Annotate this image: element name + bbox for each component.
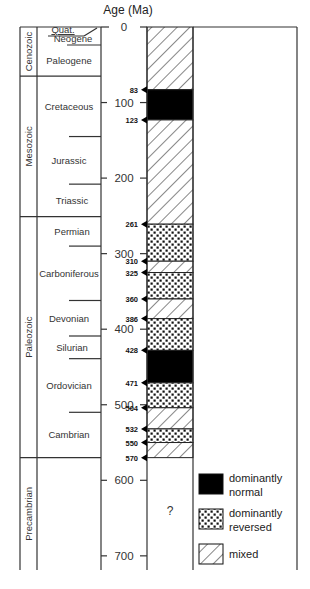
axis-tick-label: 600 xyxy=(114,474,133,486)
boundary-arrow-icon xyxy=(141,221,147,228)
polarity-interval-mixed xyxy=(147,299,193,319)
period-label-ordovician: Ordovician xyxy=(46,380,91,391)
legend-label: reversed xyxy=(229,521,272,533)
axis-tick-label: 700 xyxy=(114,550,133,562)
period-label-devonian: Devonian xyxy=(49,313,89,324)
polarity-interval-normal xyxy=(147,350,193,382)
boundary-age-label: 471 xyxy=(125,379,138,388)
polarity-column: ? xyxy=(147,27,193,570)
boundary-arrow-icon xyxy=(141,439,147,446)
boundary-arrow-icon xyxy=(141,347,147,354)
axis-tick-label: 200 xyxy=(114,172,133,184)
era-label-precambrian: Precambrian xyxy=(23,487,34,541)
polarity-interval-mixed xyxy=(147,408,193,429)
legend-label: dominantly xyxy=(229,472,283,484)
polarity-interval-reversed xyxy=(147,319,193,351)
polarity-interval-reversed xyxy=(147,429,193,443)
boundary-age-label: 325 xyxy=(125,269,138,278)
boundary-age-label: 83 xyxy=(130,86,138,95)
legend-swatch-reversed-icon xyxy=(199,509,223,529)
polarity-interval-normal xyxy=(147,90,193,120)
boundary-arrow-icon xyxy=(141,86,147,93)
legend-swatch-mixed-icon xyxy=(199,544,223,564)
boundary-age-label: 428 xyxy=(125,346,138,355)
legend: dominantlynormaldominantlyreversedmixed xyxy=(193,27,297,570)
paleomagnetic-polarity-timescale: Age (Ma) CenozoicMesozoicPaleozoicPrecam… xyxy=(0,0,310,589)
period-label-triassic: Triassic xyxy=(56,195,89,206)
boundary-arrow-icon xyxy=(141,425,147,432)
boundary-age-label: 123 xyxy=(125,116,138,125)
boundary-age-label: 504 xyxy=(125,404,138,413)
period-label-cretaceous: Cretaceous xyxy=(45,101,94,112)
era-label-cenozoic: Cenozoic xyxy=(23,32,34,72)
era-label-paleozoic: Paleozoic xyxy=(23,316,34,357)
axis-tick-label: 400 xyxy=(114,323,133,335)
legend-label: normal xyxy=(229,486,263,498)
boundary-age-label: 360 xyxy=(125,295,138,304)
boundary-age-label: 386 xyxy=(125,315,138,324)
axis-title: Age (Ma) xyxy=(103,3,152,17)
boundary-arrow-icon xyxy=(141,269,147,276)
legend-label: dominantly xyxy=(229,507,283,519)
boundary-markers: 83123261310325360386428471504532550570 xyxy=(125,86,147,463)
unknown-polarity-marker: ? xyxy=(167,504,174,518)
period-label-silurian: Silurian xyxy=(56,342,88,353)
polarity-interval-mixed xyxy=(147,443,193,458)
legend-swatch-normal-icon xyxy=(199,474,223,494)
legend-label: mixed xyxy=(229,548,258,560)
polarity-interval-mixed xyxy=(147,261,193,272)
boundary-age-label: 310 xyxy=(125,257,138,266)
period-label-jurassic: Jurassic xyxy=(52,155,87,166)
boundary-arrow-icon xyxy=(141,454,147,461)
period-label-permian: Permian xyxy=(54,226,89,237)
age-axis: 0100200300400500600700 xyxy=(101,21,147,562)
period-label-cambrian: Cambrian xyxy=(48,429,89,440)
boundary-arrow-icon xyxy=(141,116,147,123)
boundary-arrow-icon xyxy=(141,295,147,302)
boundary-age-label: 261 xyxy=(125,220,138,229)
axis-tick-label: 100 xyxy=(114,97,133,109)
boundary-age-label: 570 xyxy=(125,454,138,463)
polarity-interval-reversed xyxy=(147,273,193,299)
polarity-interval-mixed xyxy=(147,27,193,90)
polarity-interval-reversed xyxy=(147,383,193,408)
boundary-arrow-icon xyxy=(141,258,147,265)
period-label-neogene: Neogene xyxy=(54,33,93,44)
geologic-timescale-column: CenozoicMesozoicPaleozoicPrecambrianQuat… xyxy=(20,24,101,570)
axis-tick-label: 0 xyxy=(121,21,127,33)
era-label-mesozoic: Mesozoic xyxy=(23,126,34,166)
period-label-paleogene: Paleogene xyxy=(46,55,91,66)
boundary-arrow-icon xyxy=(141,315,147,322)
period-label-carboniferous: Carboniferous xyxy=(39,268,99,279)
boundary-arrow-icon xyxy=(141,379,147,386)
polarity-interval-mixed xyxy=(147,120,193,224)
boundary-age-label: 532 xyxy=(125,425,138,434)
boundary-age-label: 550 xyxy=(125,439,138,448)
polarity-interval-reversed xyxy=(147,224,193,261)
